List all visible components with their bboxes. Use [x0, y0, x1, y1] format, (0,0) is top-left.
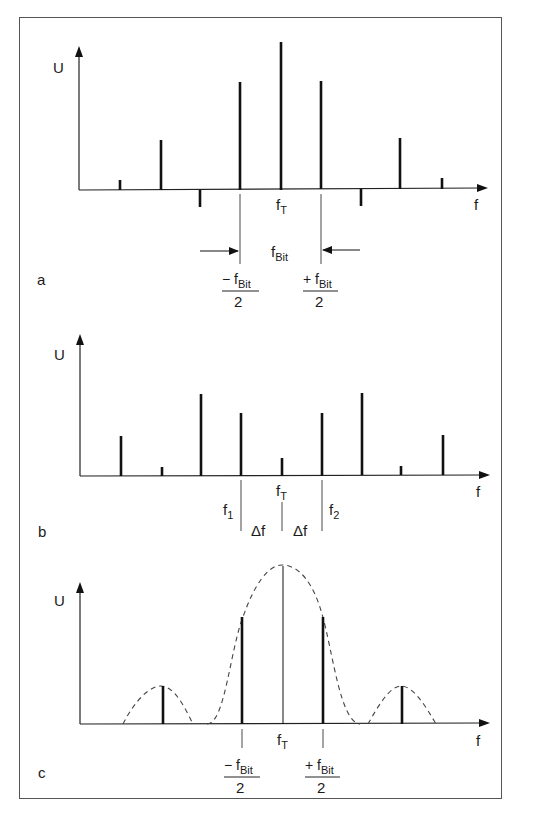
y-axis-arrow-icon: [76, 582, 84, 593]
svg-text:2: 2: [317, 779, 325, 796]
svg-text:− fBit: − fBit: [222, 271, 251, 290]
y-axis-label: U: [53, 59, 64, 76]
svg-text:+ fBit: + fBit: [305, 757, 334, 776]
x-axis: [80, 723, 484, 724]
f2-label: f2: [329, 501, 339, 521]
fraction-minus-fbit-half: − fBit 2: [224, 757, 260, 796]
panel-a: U f fT fBit a − fBit 2 + fBit 2: [37, 42, 488, 310]
carrier-frequency-label: fT: [276, 482, 287, 502]
panel-label-b: b: [38, 523, 46, 540]
panel-label-c: c: [38, 764, 46, 781]
y-axis-label: U: [54, 592, 65, 609]
x-axis-arrow-icon: [479, 471, 490, 479]
panel-c: U f fT c − fBit 2 + fBit 2: [38, 565, 490, 796]
x-axis-arrow-icon: [477, 184, 488, 192]
panel-b: U f fT f1 f2 Δf Δf b: [38, 334, 490, 540]
x-axis-arrow-icon: [479, 719, 490, 727]
svg-text:+ fBit: + fBit: [303, 271, 332, 290]
spectral-lines: [120, 42, 442, 207]
y-axis-label: U: [54, 346, 65, 363]
svg-text:2: 2: [315, 293, 323, 310]
spectrum-diagram: U f fT fBit a − fBit 2 + fBit 2: [0, 0, 545, 827]
fraction-minus-fbit-half: − fBit 2: [222, 271, 259, 310]
fraction-plus-fbit-half: + fBit 2: [303, 271, 338, 310]
spectral-lines: [163, 566, 402, 724]
carrier-frequency-label: fT: [276, 196, 287, 216]
x-axis-label: f: [476, 732, 481, 749]
svg-text:2: 2: [236, 779, 244, 796]
delta-f-left-label: Δf: [251, 522, 266, 539]
panel-label-a: a: [37, 271, 46, 288]
x-axis-label: f: [476, 483, 481, 500]
delta-f-right-label: Δf: [293, 522, 308, 539]
fraction-plus-fbit-half: + fBit 2: [305, 757, 340, 796]
x-axis-label: f: [474, 196, 479, 213]
bit-rate-label: fBit: [271, 243, 288, 263]
sinc-envelope: [123, 565, 436, 724]
spectral-lines: [121, 393, 443, 476]
svg-text:2: 2: [234, 293, 242, 310]
y-axis-arrow-icon: [75, 46, 83, 57]
carrier-frequency-label: fT: [277, 731, 288, 751]
svg-text:− fBit: − fBit: [224, 757, 253, 776]
f1-label: f1: [223, 501, 233, 521]
y-axis-arrow-icon: [76, 334, 84, 345]
